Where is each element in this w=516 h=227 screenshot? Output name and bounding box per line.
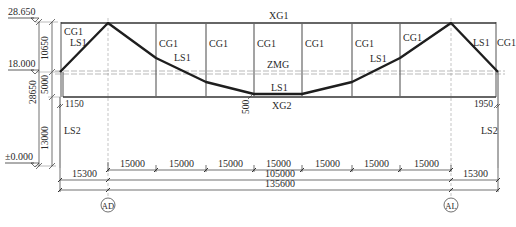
label-cg1: CG1: [257, 38, 276, 49]
label-ls1: LS1: [70, 37, 87, 48]
label-cg1: CG1: [497, 37, 516, 48]
dim-13000: 13000: [40, 126, 50, 150]
elevation-0000: ±0.000: [5, 151, 56, 167]
label-cg1: CG1: [355, 38, 374, 49]
zmg-beam: [55, 71, 505, 74]
dim-10650: 10650: [40, 36, 50, 60]
label-ls1: LS1: [271, 82, 288, 93]
label-ls1: LS1: [473, 37, 490, 48]
elevation-label: ±0.000: [5, 151, 33, 162]
label-cg1: CG1: [64, 26, 83, 37]
bay-dim: 15000: [169, 158, 194, 169]
truss-elevation-diagram: 28.650 18.000 ±0.000 10650 5000 13000 28…: [0, 0, 516, 227]
label-xg2: XG2: [272, 100, 291, 111]
offset-right: 1950: [474, 99, 493, 109]
label-ls2: LS2: [481, 125, 498, 136]
elevation-18000: 18.000: [8, 58, 39, 74]
elevation-label: 18.000: [8, 58, 36, 69]
axis-ad: AD: [101, 198, 115, 212]
axis-al: AL: [444, 198, 458, 212]
label-cg1: CG1: [209, 38, 228, 49]
label-xg1: XG1: [269, 10, 288, 21]
axis-label: AL: [445, 201, 456, 211]
sag-dim: 500: [241, 100, 251, 115]
axis-label: AD: [102, 201, 114, 211]
dim-5000: 5000: [40, 75, 50, 94]
label-ls2: LS2: [64, 125, 81, 136]
dim-28650: 28650: [28, 80, 38, 104]
elevation-28650: 28.650: [8, 6, 58, 22]
bay-dim: 15000: [315, 158, 340, 169]
right-overhang-dim: 15300: [463, 168, 488, 179]
offset-left: 1150: [65, 99, 84, 109]
total-dim: 135600: [265, 178, 295, 189]
bay-dim: 15000: [364, 158, 389, 169]
bay-dim: 15000: [218, 158, 243, 169]
label-ls1: LS1: [174, 52, 191, 63]
label-zmg: ZMG: [267, 59, 289, 70]
left-overhang-dim: 15300: [72, 168, 97, 179]
label-cg1: CG1: [305, 38, 324, 49]
bay-dim: 15000: [414, 158, 439, 169]
elevation-label: 28.650: [8, 6, 36, 17]
label-cg1: CG1: [403, 32, 422, 43]
label-ls1: LS1: [370, 53, 387, 64]
label-cg1: CG1: [159, 38, 178, 49]
bay-dim: 15000: [120, 158, 145, 169]
